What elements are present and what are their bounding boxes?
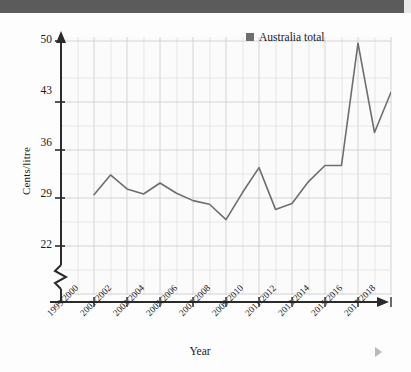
chart-screenshot: Cents/litre Year 2229364350 1999/2000200…	[0, 0, 411, 372]
top-header-bar-edge	[404, 0, 411, 13]
play-triangle-icon[interactable]	[375, 347, 382, 357]
legend-label: Australia total	[259, 31, 324, 43]
y-axis-tick-label: 36	[26, 136, 52, 148]
top-header-bar	[0, 0, 411, 13]
y-axis-tick-label: 43	[26, 84, 52, 96]
legend-swatch-icon	[246, 33, 254, 41]
y-axis-tick-label: 50	[26, 33, 52, 45]
chart-legend: Australia total	[246, 31, 324, 43]
chart-plot-svg	[0, 13, 411, 372]
y-axis-tick-label: 29	[26, 187, 52, 199]
y-axis-tick-label: 22	[26, 238, 52, 250]
x-axis-title: Year	[150, 345, 250, 357]
chart-figure: Cents/litre Year 2229364350 1999/2000200…	[0, 13, 411, 372]
x-axis-arrowhead	[377, 297, 389, 307]
